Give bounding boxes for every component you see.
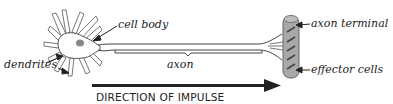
label-direction-of-impulse: DIRECTION OF IMPULSE [96,91,224,103]
nucleus-icon [76,40,84,47]
axon-shape [98,34,282,60]
label-cell-body: cell body [118,18,168,31]
label-axon-terminal: axon terminal [311,17,388,30]
label-dendrites: dendrites [4,58,57,71]
label-axon: axon [167,58,193,71]
neuron-diagram [0,0,393,104]
label-effector-cells: effector cells [311,63,383,76]
axon-brace [115,50,262,56]
